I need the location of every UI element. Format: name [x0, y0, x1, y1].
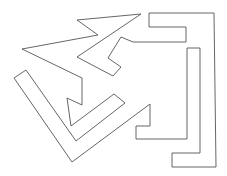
outline-figure: [0, 0, 227, 176]
figure-canvas: [0, 0, 227, 176]
outline-polygon: [14, 13, 216, 167]
